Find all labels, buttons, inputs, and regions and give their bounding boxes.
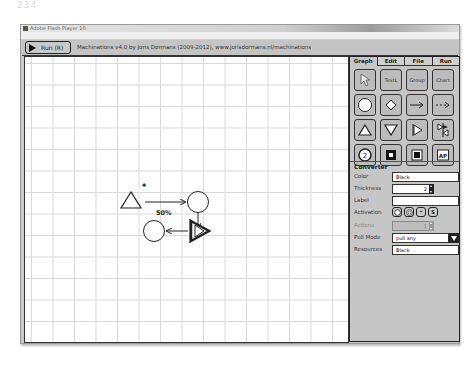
interactive-double-circle-icon [406,209,413,216]
properties-title: Converter [350,161,459,171]
panel-tabs: Graph Edit File Run [350,57,459,66]
activation-row: Activation * [350,207,459,220]
window-title: Adobe Flash Player 10 [30,25,86,32]
actions-value: 1 [424,223,427,229]
run-button[interactable]: Run (R) [25,41,71,54]
text-tool-button[interactable]: TextL [380,69,402,91]
pull-mode-label: Pull Mode [354,234,381,240]
square-icon [410,148,424,162]
solid-arrow-icon [409,100,425,110]
flash-player-window: Adobe Flash Player 10 File View Control … [20,24,460,344]
passive-circle-icon [394,209,401,216]
tab-run[interactable]: Run [433,57,460,66]
activation-label: Activation [354,209,382,215]
converter-tool-button[interactable] [406,119,428,141]
color-label: Color [354,173,368,179]
color-row: Color Black [350,171,459,183]
connection-label: 50% [156,209,172,217]
pool-tool-button[interactable] [354,94,376,116]
trader-icon [435,122,451,138]
pull-mode-select[interactable]: pull any [392,233,459,243]
label-label: Label [354,197,369,203]
svg-text:2: 2 [363,152,367,160]
triangle-down-icon [383,123,399,137]
source-automatic-marker: * [142,183,147,192]
menu-bar: File View Control Help [21,32,459,40]
activation-starting-button[interactable]: S [428,207,438,217]
resources-label: Resources [354,246,382,252]
label-input[interactable] [392,196,459,206]
starting-s-icon: S [431,209,435,215]
text-tool-label: TextL [385,77,398,83]
activation-options: * S [392,207,438,217]
pool-node-top[interactable] [188,192,209,213]
trader-tool-button[interactable] [432,119,454,141]
credits-text: Machinations v4.0 by Joris Dormans (2009… [77,44,311,50]
title-bar: Adobe Flash Player 10 [21,25,459,32]
end-condition-icon [384,148,398,162]
select-tool-button[interactable] [354,69,376,91]
color-input[interactable]: Black [392,172,459,182]
activation-passive-button[interactable] [392,207,402,217]
activation-interactive-button[interactable] [404,207,414,217]
side-panel: Graph Edit File Run TextL Group Chart [349,56,460,342]
stepper-arrows-icon[interactable] [429,184,434,194]
source-tool-button[interactable] [354,119,376,141]
group-tool-button[interactable]: Group [406,69,428,91]
triangle-up-icon [357,123,373,137]
chart-tool-button[interactable]: Chart [432,69,454,91]
resources-row: Resources Black [350,244,459,256]
properties-section: Converter Color Black Thickness 2 Label … [350,161,459,256]
tab-edit[interactable]: Edit [378,57,406,66]
tab-graph[interactable]: Graph [350,57,378,66]
chevron-down-icon[interactable] [448,233,459,243]
stepper-arrows-icon[interactable] [429,221,434,231]
play-icon [29,44,36,52]
diagram-canvas[interactable]: * 50% [24,56,349,343]
converter-icon [409,122,425,138]
flash-app-icon [23,26,28,31]
tool-palette: TextL Group Chart [354,69,454,166]
label-row: Label [350,195,459,207]
dashed-arrow-icon [435,100,451,110]
converter-node[interactable] [190,219,209,243]
thickness-row: Thickness 2 [350,183,459,195]
chart-tool-label: Chart [436,77,450,83]
diamond-icon [384,98,398,112]
cursor-icon [358,73,372,87]
thickness-label: Thickness [354,185,381,191]
automatic-star-icon: * [420,209,423,215]
activation-automatic-button[interactable]: * [416,207,426,217]
group-tool-label: Group [409,77,424,83]
circle-icon [357,97,373,113]
thickness-value: 2 [424,186,427,192]
actions-label: Actions [354,222,374,228]
resources-input[interactable]: Black [392,245,459,255]
drain-tool-button[interactable] [380,119,402,141]
pull-mode-value: pull any [396,235,416,241]
pool-node-bottom[interactable] [144,221,165,242]
page-number: 234 [17,0,37,10]
toolbar: Run (R) Machinations v4.0 by Joris Dorma… [22,40,458,56]
actions-stepper[interactable]: 1 [392,221,434,231]
run-button-label: Run (R) [41,44,63,51]
thickness-stepper[interactable]: 2 [392,184,434,194]
gate-tool-button[interactable] [380,94,402,116]
diagram: * 50% [25,57,348,342]
source-node[interactable] [121,192,141,208]
state-connection-tool-button[interactable] [432,94,454,116]
actions-row: Actions 1 [350,220,459,232]
tab-file[interactable]: File [405,57,433,66]
svg-text:AP: AP [439,153,447,159]
pull-mode-row: Pull Mode pull any [350,232,459,244]
ap-icon: AP [436,148,450,162]
resource-connection-tool-button[interactable] [406,94,428,116]
